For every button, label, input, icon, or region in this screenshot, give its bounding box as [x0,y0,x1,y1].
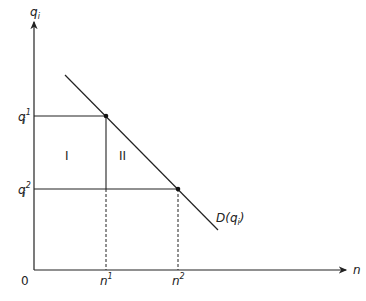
x-axis-label: n [353,263,361,277]
n1-label: n1 [100,272,113,288]
region-2-label: II [119,149,126,163]
point-1 [104,114,109,119]
demand-diagram: qi n 0 q1 i q2 i n1 n2 I II D(qi) [0,0,366,301]
demand-curve [65,75,218,230]
point-2 [176,187,181,192]
n2-label: n2 [172,272,185,288]
y-axis-label: qi [30,5,41,21]
curve-label: D(qi) [216,211,244,227]
region-1-label: I [65,149,69,163]
origin-label: 0 [21,274,29,288]
diagram-canvas: qi n 0 q1 i q2 i n1 n2 I II D(qi) [0,0,366,301]
